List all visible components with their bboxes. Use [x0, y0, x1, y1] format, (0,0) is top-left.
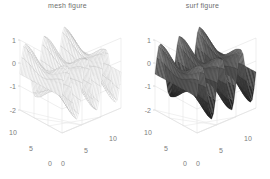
z-tick-label-neg2: -2: [145, 107, 151, 114]
panel-surf: surf figure: [135, 0, 270, 179]
z-tick-label-neg2: -2: [10, 107, 16, 114]
z-tick-label-0: 0: [12, 60, 16, 67]
panel-title-mesh: mesh figure: [0, 1, 135, 10]
z-tick-label-0: 0: [147, 60, 151, 67]
surf-plot-area: 1 0 -1 -2 10 5 0 0 5 10: [135, 10, 270, 179]
y-tick-label-10: 10: [144, 129, 152, 136]
z-tick-label-neg1: -1: [145, 83, 151, 90]
panel-title-surf: surf figure: [135, 1, 270, 10]
y-tick-label-5: 5: [29, 145, 33, 152]
mesh-plot-area: 1 0 -1 -2 10 5 0 0 5 10: [0, 10, 135, 179]
panel-mesh: mesh figure: [0, 0, 135, 179]
x-tick-label-0: 0: [61, 160, 65, 167]
y-tick-label-5: 5: [164, 145, 168, 152]
x-tick-label-10: 10: [244, 135, 252, 142]
z-tick-label-1: 1: [12, 37, 16, 44]
x-tick-label-10: 10: [109, 135, 117, 142]
y-tick-label-0: 0: [183, 160, 187, 167]
x-tick-label-5: 5: [219, 147, 223, 154]
z-tick-label-1: 1: [147, 37, 151, 44]
x-tick-label-5: 5: [84, 147, 88, 154]
matlab-figure-window: mesh figure: [0, 0, 270, 179]
y-tick-label-10: 10: [9, 129, 17, 136]
z-axis-ticks-surf: [153, 40, 155, 110]
z-tick-label-neg1: -1: [10, 83, 16, 90]
x-tick-label-0: 0: [196, 160, 200, 167]
z-axis-ticks-mesh: [18, 40, 20, 110]
mesh-surface: [20, 27, 121, 119]
surf-surface: [155, 27, 256, 119]
y-tick-label-0: 0: [48, 160, 52, 167]
